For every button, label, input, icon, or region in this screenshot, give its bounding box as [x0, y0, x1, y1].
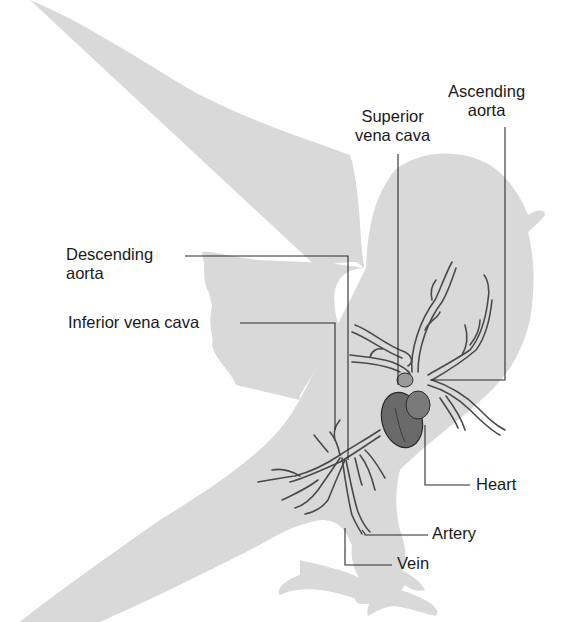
- label-descending-aorta: Descending aorta: [66, 245, 153, 283]
- label-superior-vena-cava-line2: vena cava: [355, 126, 430, 145]
- label-descending-aorta-line1: Descending: [66, 245, 153, 264]
- label-descending-aorta-line2: aorta: [66, 264, 153, 283]
- label-heart: Heart: [476, 475, 516, 494]
- label-heart-line1: Heart: [476, 475, 516, 494]
- label-vein: Vein: [397, 554, 429, 573]
- label-inferior-vena-cava-line1: Inferior vena cava: [68, 313, 199, 332]
- label-superior-vena-cava-line1: Superior: [355, 107, 430, 126]
- label-ascending-aorta-line2: aorta: [448, 101, 525, 120]
- label-inferior-vena-cava: Inferior vena cava: [68, 313, 199, 332]
- label-artery-line1: Artery: [432, 524, 476, 543]
- label-superior-vena-cava: Superior vena cava: [355, 107, 430, 145]
- bird-circulation-diagram: Ascending aorta Superior vena cava Desce…: [0, 0, 578, 622]
- label-vein-line1: Vein: [397, 554, 429, 573]
- label-ascending-aorta: Ascending aorta: [448, 82, 525, 120]
- label-artery: Artery: [432, 524, 476, 543]
- label-ascending-aorta-line1: Ascending: [448, 82, 525, 101]
